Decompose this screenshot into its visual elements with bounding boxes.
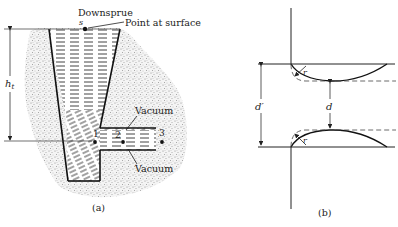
inner-gap-label: d [326,101,332,112]
runner-metal [100,130,156,149]
point-1-dot [93,140,97,144]
surface-point-dot [83,27,87,31]
surface-point-letter: s [79,18,83,27]
point-3-dot [160,140,164,144]
point-2-dot [121,140,125,144]
point-2-label: 2 [115,130,121,140]
vacuum-bottom-label: Vacuum [134,163,173,174]
point-1-label: 1 [93,129,99,139]
panel-a-casting-diagram: ht Downsprue s Point at surface Vacuum V… [3,7,201,213]
panel-a-caption: (a) [92,202,105,213]
panel-b-caption: (b) [318,207,332,218]
lower-radius-label: r [303,136,308,145]
figure-canvas: ht Downsprue s Point at surface Vacuum V… [0,0,398,227]
panel-b-gate-diagram: r r d′ d (b) [254,8,396,218]
upper-radius-label: r [303,68,308,77]
vacuum-top-label: Vacuum [134,105,173,116]
point-3-label: 3 [159,128,165,138]
surface-point-label: Point at surface [125,17,201,28]
outer-gap-label: d′ [255,101,264,112]
surface-point-leader [88,22,124,28]
